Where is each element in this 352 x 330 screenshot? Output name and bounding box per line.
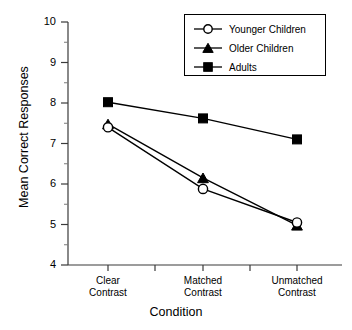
y-tick-label: 4 — [30, 259, 56, 270]
legend-item-older-children: Older Children — [193, 41, 293, 55]
legend-item-adults: Adults — [193, 60, 257, 74]
y-tick-label: 9 — [30, 57, 56, 68]
x-tick-label-line2: Contrast — [63, 287, 153, 299]
filled-triangle-marker-icon — [193, 42, 223, 54]
legend-label: Younger Children — [229, 24, 306, 35]
x-tick-label-line2: Contrast — [252, 287, 342, 299]
y-axis-title: Mean Correct Responses — [17, 37, 31, 237]
y-tick-label: 7 — [30, 138, 56, 149]
legend-label: Older Children — [229, 43, 293, 54]
x-tick-label-clear-contrast: Clear Contrast — [63, 275, 153, 298]
x-tick-label-line1: Clear — [63, 275, 153, 287]
y-tick-label: 8 — [30, 97, 56, 108]
legend-label: Adults — [229, 62, 257, 73]
line-chart: 10 9 8 7 6 5 4 Clear Contrast Matched Co… — [0, 0, 352, 330]
filled-square-marker-icon — [193, 61, 223, 73]
legend-item-younger-children: Younger Children — [193, 22, 306, 36]
y-tick-label: 5 — [30, 219, 56, 230]
open-circle-marker-icon — [193, 23, 223, 35]
x-tick-label-matched-contrast: Matched Contrast — [158, 275, 248, 298]
markers-adults — [104, 98, 302, 144]
x-ticks — [108, 265, 297, 271]
x-tick-label-unmatched-contrast: Unmatched Contrast — [252, 275, 342, 298]
y-major-ticks — [61, 22, 68, 265]
x-tick-label-line2: Contrast — [158, 287, 248, 299]
y-tick-label: 6 — [30, 178, 56, 189]
x-axis-title: Condition — [0, 305, 352, 319]
x-tick-label-line1: Unmatched — [252, 275, 342, 287]
x-tick-label-line1: Matched — [158, 275, 248, 287]
y-tick-label: 10 — [30, 16, 56, 27]
legend: Younger Children Older Children Adults — [184, 14, 326, 76]
